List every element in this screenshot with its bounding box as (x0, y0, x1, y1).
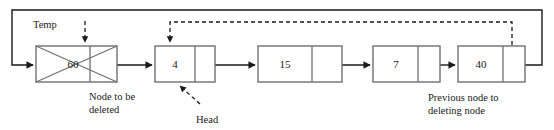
node-40-box (458, 46, 525, 82)
node-60-value: 60 (68, 58, 80, 70)
node-15-value: 15 (280, 58, 292, 70)
head-label: Head (196, 114, 219, 125)
node-4-box (155, 46, 215, 82)
node-to-be-deleted-label-line2: deleted (89, 104, 120, 115)
head-pointer-path (180, 86, 200, 104)
previous-node-label-line1: Previous node to (428, 92, 499, 103)
node-4-value: 4 (172, 58, 178, 70)
diagram-canvas: 60 4 15 7 40 Temp Node to be del (0, 0, 554, 130)
node-7: 7 (373, 46, 440, 82)
head-pointer-arrow (180, 86, 200, 104)
node-7-value: 7 (393, 58, 399, 70)
temp-label: Temp (33, 19, 57, 30)
node-15: 15 (258, 46, 342, 82)
node-15-box (258, 46, 342, 82)
node-40: 40 (458, 46, 525, 82)
node-4: 4 (155, 46, 215, 82)
previous-node-label-line2: deleting node (428, 105, 485, 116)
node-40-value: 40 (476, 58, 488, 70)
node-60: 60 (36, 46, 117, 82)
node-7-box (373, 46, 440, 82)
node-to-be-deleted-label-line1: Node to be (89, 91, 135, 102)
linked-list-deletion-diagram: 60 4 15 7 40 Temp Node to be del (0, 0, 554, 130)
